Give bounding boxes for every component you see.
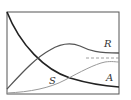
label-s: S xyxy=(49,75,56,86)
decay-curve xyxy=(7,12,119,87)
a-curve xyxy=(7,62,119,93)
r-curve xyxy=(7,44,119,89)
diagram-canvas: R S A xyxy=(0,0,131,100)
label-r: R xyxy=(103,38,112,49)
label-a: A xyxy=(105,72,113,83)
plot-frame xyxy=(7,12,119,94)
